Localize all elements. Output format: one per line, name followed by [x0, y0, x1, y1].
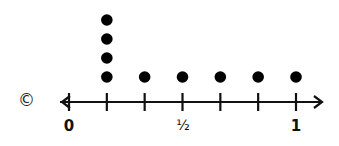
data-dot: [101, 33, 113, 45]
data-dot: [101, 71, 113, 83]
data-dot: [177, 71, 189, 83]
data-dot: [290, 71, 302, 83]
data-dot: [252, 71, 264, 83]
tick-label-one: 1: [291, 117, 301, 135]
dot-plot: [0, 0, 339, 146]
data-dots: [101, 14, 302, 83]
tick-label-half: ½: [176, 117, 190, 133]
data-dot: [101, 14, 113, 26]
data-dot: [101, 52, 113, 64]
data-dot: [215, 71, 227, 83]
data-dot: [139, 71, 151, 83]
tick-label-zero: 0: [64, 117, 74, 135]
number-line-axis: [60, 96, 322, 108]
